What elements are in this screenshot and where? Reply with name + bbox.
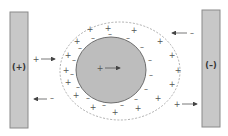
negative-electrode: (–) <box>202 10 220 127</box>
svg-text:+: + <box>90 103 97 112</box>
svg-text:–: – <box>76 83 80 92</box>
particle-charge: + <box>97 64 104 73</box>
ion-flow-right-upper: – <box>172 29 194 38</box>
svg-text:–: – <box>126 34 130 43</box>
svg-text:+: + <box>131 26 138 35</box>
svg-text:+: + <box>63 66 70 75</box>
svg-text:–: – <box>148 56 152 65</box>
svg-text:–: – <box>108 30 112 39</box>
ion-flow-left-lower: – <box>34 94 54 103</box>
svg-text:–: – <box>144 85 148 94</box>
electrophoresis-diagram: (+) (–) + + + + + + + + + + + + + + + + … <box>0 0 228 136</box>
svg-text:+: + <box>157 37 164 46</box>
svg-text:–: – <box>134 95 138 104</box>
svg-text:+: + <box>169 51 176 60</box>
svg-text:+: + <box>73 91 80 100</box>
svg-text:+: + <box>65 51 72 60</box>
svg-text:–: – <box>78 44 82 53</box>
svg-text:+: + <box>65 78 72 87</box>
svg-text:–: – <box>91 34 95 43</box>
svg-text:+: + <box>174 100 181 109</box>
negative-electrode-label: (–) <box>205 61 216 70</box>
svg-text:–: – <box>72 56 76 65</box>
svg-text:–: – <box>149 71 153 80</box>
svg-text:–: – <box>120 101 124 110</box>
svg-text:+: + <box>112 108 119 117</box>
svg-text:+: + <box>87 25 94 34</box>
positive-electrode: (+) <box>10 12 28 128</box>
svg-text:–: – <box>70 70 74 79</box>
svg-text:–: – <box>140 43 144 52</box>
svg-text:+: + <box>33 55 40 64</box>
svg-text:–: – <box>102 101 106 110</box>
svg-text:–: – <box>190 29 194 38</box>
svg-text:+: + <box>155 94 162 103</box>
svg-text:+: + <box>135 104 142 113</box>
svg-text:+: + <box>175 66 182 75</box>
svg-text:–: – <box>86 94 90 103</box>
positive-electrode-label: (+) <box>12 63 26 72</box>
ion-flow-left-upper: + <box>33 55 55 64</box>
ion-flow-right-lower: + <box>174 100 197 109</box>
svg-text:+: + <box>169 80 176 89</box>
svg-text:–: – <box>50 94 54 103</box>
